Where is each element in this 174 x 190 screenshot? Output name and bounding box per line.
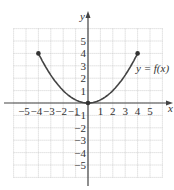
svg-text:−4: −4	[31, 105, 43, 117]
function-graph: −5−4−3−2−11234554321−1−2−3−4−5 y x y = f…	[0, 0, 174, 190]
svg-text:5: 5	[81, 35, 87, 47]
curve-label: y = f(x)	[135, 62, 169, 75]
axes	[4, 11, 173, 186]
svg-text:1: 1	[98, 105, 104, 117]
y-axis-label: y	[79, 10, 85, 22]
svg-text:−5: −5	[18, 105, 30, 117]
svg-text:1: 1	[81, 85, 87, 97]
svg-text:2: 2	[110, 105, 116, 117]
svg-text:−3: −3	[43, 105, 55, 117]
svg-text:−1: −1	[74, 109, 86, 121]
svg-text:−5: −5	[74, 159, 86, 171]
svg-text:5: 5	[147, 105, 153, 117]
svg-text:−4: −4	[74, 147, 86, 159]
svg-text:−2: −2	[55, 105, 67, 117]
svg-text:−2: −2	[74, 122, 86, 134]
svg-text:−3: −3	[74, 134, 86, 146]
x-axis-label: x	[167, 102, 173, 114]
svg-text:3: 3	[122, 105, 128, 117]
svg-text:2: 2	[81, 72, 87, 84]
svg-text:3: 3	[81, 60, 87, 72]
svg-text:4: 4	[135, 105, 141, 117]
svg-text:4: 4	[81, 47, 87, 59]
